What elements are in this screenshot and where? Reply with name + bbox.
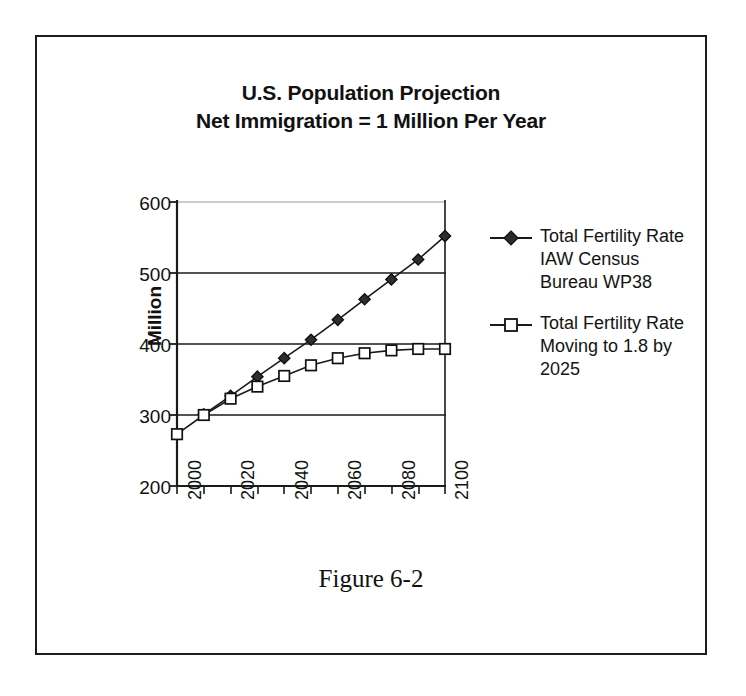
legend-label-series-2: Total Fertility Rate Moving to 1.8 by 20… xyxy=(540,312,689,381)
filled-diamond-marker-icon xyxy=(489,227,533,249)
legend-entry-series-1[interactable]: Total Fertility Rate IAW Census Bureau W… xyxy=(489,225,689,294)
chart-legend: Total Fertility Rate IAW Census Bureau W… xyxy=(489,225,689,399)
data-point-open-square xyxy=(306,360,317,371)
data-point-open-square xyxy=(440,344,451,355)
legend-entry-series-2[interactable]: Total Fertility Rate Moving to 1.8 by 20… xyxy=(489,312,689,381)
data-point-open-square xyxy=(172,429,183,440)
y-axis-ticks xyxy=(169,202,177,486)
data-point-open-square xyxy=(359,348,370,359)
data-point-open-square xyxy=(413,344,424,355)
data-point-filled-diamond xyxy=(386,274,397,285)
data-series-layer xyxy=(172,230,451,439)
data-point-open-square xyxy=(252,381,263,392)
data-point-open-square xyxy=(333,353,344,364)
data-point-open-square xyxy=(279,371,290,382)
series-line xyxy=(204,236,445,414)
data-point-open-square xyxy=(386,345,397,356)
series-2 xyxy=(172,344,451,440)
figure-caption: Figure 6-2 xyxy=(37,565,705,593)
figure-frame: U.S. Population Projection Net Immigrati… xyxy=(35,35,707,655)
data-point-open-square xyxy=(199,410,210,421)
x-axis-ticks xyxy=(177,486,445,494)
data-point-open-square xyxy=(225,393,236,404)
open-square-marker-icon xyxy=(489,314,533,336)
legend-label-series-1: Total Fertility Rate IAW Census Bureau W… xyxy=(540,225,689,294)
gridlines xyxy=(177,202,446,415)
data-point-filled-diamond xyxy=(279,353,290,364)
series-1 xyxy=(198,230,450,419)
